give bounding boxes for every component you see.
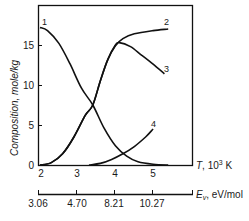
e-tick-4-70: 4.70 [67, 198, 87, 209]
curve-label-1: 1 [42, 17, 47, 27]
x-tick-3: 3 [74, 168, 80, 179]
curves [40, 27, 168, 165]
curve-2 [40, 29, 168, 165]
y-tick-5: 5 [28, 120, 34, 131]
y-axis: 0 5 10 15 Composition, mole/kg [9, 40, 42, 171]
curve-label-3: 3 [164, 64, 169, 74]
y-tick-15: 15 [23, 40, 35, 51]
energy-axis-title: Ev, eV/mol [196, 189, 243, 201]
e-tick-3-06: 3.06 [28, 198, 48, 209]
x-tick-5: 5 [150, 168, 156, 179]
curve-3 [40, 42, 164, 165]
y-axis-title: Composition, mole/kg [9, 59, 20, 156]
x-axis: 2 3 4 5 T, 103 K [38, 159, 232, 179]
e-tick-8-21: 8.21 [104, 198, 124, 209]
x-axis-title: T, 103 K [196, 159, 232, 171]
e-tick-10-27: 10.27 [139, 198, 164, 209]
composition-chart: 1 2 3 4 0 5 10 15 Composition, mole/kg 2… [0, 0, 249, 221]
x-tick-2: 2 [38, 168, 44, 179]
energy-axis: 3.06 4.70 8.21 10.27 Ev, eV/mol [28, 189, 243, 209]
y-tick-10: 10 [23, 80, 35, 91]
curve-label-4: 4 [151, 119, 156, 129]
curve-label-2: 2 [164, 17, 169, 27]
x-tick-4: 4 [112, 168, 118, 179]
curve-4 [89, 129, 153, 165]
y-tick-0: 0 [28, 160, 34, 171]
curve-1 [40, 27, 168, 165]
plot-frame [39, 6, 193, 166]
